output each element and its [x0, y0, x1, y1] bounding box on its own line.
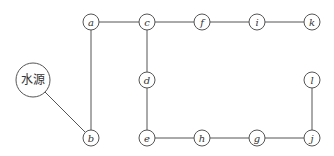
node-label: l	[310, 75, 313, 86]
nodes-layer: 水源acfikdlbehgj	[16, 14, 320, 146]
node-a: a	[83, 14, 99, 30]
node-f: f	[194, 14, 210, 30]
node-label: h	[199, 133, 205, 144]
node-label: i	[255, 17, 258, 28]
node-label: g	[254, 133, 260, 144]
node-g: g	[249, 130, 265, 146]
water-network-diagram: 水源acfikdlbehgj	[0, 0, 334, 156]
node-b: b	[83, 130, 99, 146]
source-label: 水源	[21, 73, 45, 87]
node-k: k	[304, 14, 320, 30]
node-label: b	[88, 133, 94, 144]
node-label: c	[144, 17, 150, 28]
node-j: j	[304, 130, 320, 146]
node-label: d	[144, 75, 150, 86]
node-c: c	[139, 14, 155, 30]
edges-layer	[33, 22, 312, 138]
node-l: l	[304, 72, 320, 88]
node-h: h	[194, 130, 210, 146]
node-label: a	[88, 17, 94, 28]
node-label: e	[144, 133, 150, 144]
node-e: e	[139, 130, 155, 146]
node-label: k	[309, 17, 315, 28]
node-i: i	[249, 14, 265, 30]
node-water-source: 水源	[16, 63, 50, 97]
node-d: d	[139, 72, 155, 88]
